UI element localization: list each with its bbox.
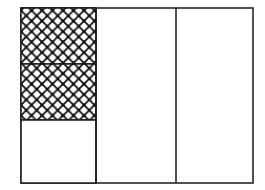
shaded-cell-top bbox=[21, 8, 96, 64]
fraction-diagram bbox=[0, 0, 265, 190]
shaded-cell-middle bbox=[21, 64, 96, 120]
unshaded-cell-bottom bbox=[21, 120, 96, 183]
